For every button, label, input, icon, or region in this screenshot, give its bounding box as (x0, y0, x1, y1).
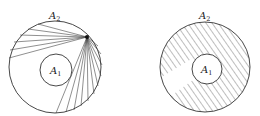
right-panel: A2 A1 (150, 10, 253, 115)
label-a2-right: A2 (198, 10, 210, 23)
left-panel: A2 A1 (9, 10, 102, 113)
ray-line (38, 24, 87, 37)
view-factor-diagram: A2 A1 A2 A1 (0, 0, 260, 116)
ray-line (87, 37, 88, 101)
ray-line (10, 37, 87, 50)
ray-line (14, 37, 87, 42)
ray-line (74, 37, 87, 110)
label-a1-right: A1 (200, 64, 212, 77)
ray-line (20, 35, 87, 37)
ray-line (9, 37, 87, 58)
emitting-point (85, 35, 89, 39)
ray-line (87, 37, 102, 65)
